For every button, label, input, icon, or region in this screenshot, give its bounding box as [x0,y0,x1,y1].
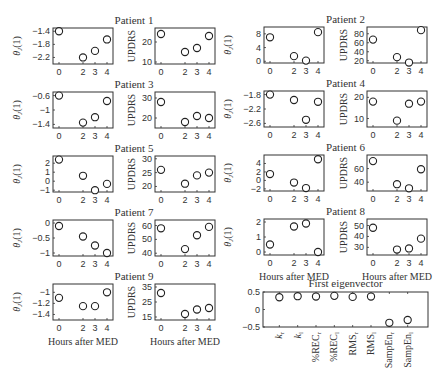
data-point [181,118,188,125]
y-tick-label: 35 [142,282,152,292]
panel-title: Patient 3 [115,78,154,90]
x-tick-label: 3 [194,259,199,269]
data-point [417,235,424,242]
x-tick-label: 2 [291,66,296,76]
data-point [193,172,200,179]
y-tick-label: −0.5 [242,322,260,332]
data-point [276,294,283,301]
y-tick-label: 20 [354,92,364,102]
data-point [205,32,212,39]
category-label: SampEnl [402,332,415,368]
theta-axes-patient-4: −1.8−2.2−2.60234θJ(1) [222,90,324,140]
y-tick-label: 40 [142,248,152,258]
y-tick-label: −2.2 [32,52,50,62]
data-point [55,28,62,35]
x-tick-label: 2 [80,67,85,77]
theta-axes-patient-3: −0.6−1−1.40234θJ(1) [11,91,113,141]
data-point [294,293,301,300]
data-point [79,303,86,310]
x-tick-label: 4 [418,194,423,204]
x-tick-label: 0 [158,131,163,141]
y-tick-label: −1 [40,185,50,195]
x-tick-label: 3 [194,67,199,77]
updrs-axes-patient-7: 6050400234UPDRS [126,220,215,269]
y-axis-label: θJ(1) [11,100,24,120]
data-point [193,112,200,119]
data-point [193,44,200,51]
theta-axes-patient-6: 420−20234θJ(1) [222,155,324,204]
data-point [266,91,273,98]
data-point [91,303,98,310]
y-tick-label: 10 [142,57,152,67]
x-tick-label: 3 [406,66,411,76]
theta-axes-patient-7: 0−0.5−10234θJ(1) [11,218,113,269]
eigenvector-title: First eigenvector [308,277,383,289]
x-tick-label: 2 [394,258,399,268]
x-tick-label: 4 [315,194,320,204]
data-point [386,319,393,326]
x-tick-label: 4 [104,323,109,333]
data-point [205,114,212,121]
data-point [312,293,319,300]
y-tick-label: 10 [354,114,364,124]
y-tick-label: −1 [40,105,50,115]
updrs-axes-patient-2: 806040200234UPDRS [338,27,427,76]
category-label: %RECl [328,332,341,362]
data-point [290,223,297,230]
x-tick-label: 0 [370,130,375,140]
theta-axes-patient-2: 8400234θJ(1) [222,27,324,76]
y-axis-label: UPDRS [126,158,137,190]
x-tick-label: 3 [92,131,97,141]
y-axis-label: UPDRS [338,157,349,189]
data-point [367,293,374,300]
data-point [193,232,200,239]
y-axis-label: θJ(1) [222,35,235,55]
data-point [405,100,412,107]
x-tick-label: 4 [104,67,109,77]
updrs-axes-patient-4: 20100234UPDRS [338,91,427,140]
x-tick-label: 4 [206,131,211,141]
y-tick-label: 60 [142,221,152,231]
panel-title: Patient 6 [326,141,365,153]
x-tick-label: 4 [418,66,423,76]
x-tick-label: 3 [194,131,199,141]
data-point [393,246,400,253]
y-tick-label: −2 [251,184,261,194]
category-label: %RECr [310,331,323,362]
y-tick-label: −1 [40,248,50,258]
panel-title: Patient 1 [115,14,154,26]
y-tick-label: 20 [354,56,364,66]
patient-panel-5: Patient 5210−10234θJ(1)3025200234UPDRS [11,142,215,205]
data-point [103,249,110,256]
x-tick-label: 3 [92,323,97,333]
y-tick-label: −1.4 [32,119,50,129]
data-point [290,96,297,103]
x-tick-label: 4 [104,131,109,141]
theta-axes-patient-9: −1−1.2−1.40234θJ(1)Hours after MED [11,284,118,347]
x-tick-label: 0 [56,259,61,269]
category-label: kl [292,332,305,338]
x-tick-label: 2 [182,67,187,77]
data-point [314,98,321,105]
panel-title: Patient 9 [115,270,154,282]
y-tick-label: 0 [45,218,50,228]
x-tick-label: 3 [303,194,308,204]
data-point [349,293,356,300]
data-point [181,310,188,317]
category-label: RMSl [365,332,378,355]
patient-panel-1: Patient 1−1.4−1.8−2.20234θJ(1)20100234UP… [11,14,215,77]
y-tick-label: 20 [142,181,152,191]
data-point [193,306,200,313]
patient-panel-6: Patient 6420−20234θJ(1)60400234UPDRS [222,141,427,204]
data-point [91,187,98,194]
data-point [205,169,212,176]
x-tick-label: 2 [182,131,187,141]
data-point [55,222,62,229]
y-tick-label: −1 [40,287,50,297]
patient-panel-7: Patient 70−0.5−10234θJ(1)6050400234UPDRS [11,206,215,269]
x-tick-label: 4 [418,258,423,268]
data-point [181,180,188,187]
x-tick-label: 0 [267,66,272,76]
x-tick-label: 2 [394,66,399,76]
x-tick-label: 3 [194,195,199,205]
